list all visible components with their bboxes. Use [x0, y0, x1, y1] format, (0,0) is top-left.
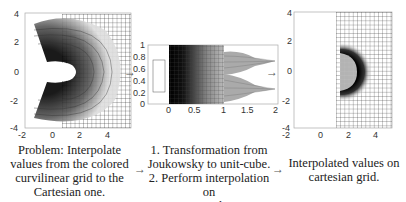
- svg-text:0.2: 0.2: [133, 88, 146, 98]
- left-plot: 4 2 0 -2 -4 -2 0 2 4: [0, 0, 140, 140]
- svg-text:0.8: 0.8: [133, 52, 146, 62]
- svg-text:4: 4: [14, 9, 19, 19]
- svg-text:0: 0: [318, 130, 323, 140]
- svg-text:0: 0: [166, 105, 171, 115]
- caption-middle: 1. Transformation from Joukowsky to unit…: [142, 143, 276, 202]
- svg-text:4: 4: [105, 130, 110, 140]
- svg-text:0: 0: [287, 66, 292, 76]
- middle-plot-figure: 1 0.8 0.6 0.4 0.2 0 0 0.5 1 1.5 2: [130, 30, 275, 112]
- svg-text:-2: -2: [10, 96, 18, 106]
- arrow-right-icon: →: [124, 66, 136, 78]
- svg-text:2: 2: [14, 37, 19, 47]
- left-x-ticks: -2 0 2 4: [18, 130, 110, 140]
- right-plot-figure: 4 2 0 -2 -4 -2 0 2 4: [260, 0, 406, 140]
- svg-text:0: 0: [50, 130, 55, 140]
- svg-text:2: 2: [77, 130, 82, 140]
- left-y-ticks: 4 2 0 -2 -4: [10, 9, 19, 133]
- svg-text:1: 1: [140, 40, 145, 50]
- arrow-right-icon: →: [266, 66, 278, 78]
- svg-text:0: 0: [140, 99, 145, 109]
- svg-text:4: 4: [287, 8, 292, 18]
- right-x-ticks: -2 0 2 4: [282, 130, 378, 140]
- svg-text:-2: -2: [282, 96, 290, 106]
- left-plot-figure: 4 2 0 -2 -4 -2 0 2 4: [0, 0, 140, 140]
- svg-text:0: 0: [14, 67, 19, 77]
- svg-text:1: 1: [221, 105, 226, 115]
- svg-text:-4: -4: [10, 123, 18, 133]
- caption-right: Interpolated values on cartesian grid.: [282, 156, 406, 184]
- caption-left: Problem: Interpolate values from the col…: [2, 143, 137, 199]
- svg-text:2: 2: [346, 130, 351, 140]
- svg-text:4: 4: [373, 130, 378, 140]
- svg-text:2: 2: [287, 36, 292, 46]
- svg-text:1.5: 1.5: [241, 105, 254, 115]
- middle-plot: 1 0.8 0.6 0.4 0.2 0 0 0.5 1 1.5 2: [130, 30, 275, 112]
- right-y-ticks: 4 2 0 -2 -4: [282, 8, 292, 133]
- svg-text:-2: -2: [18, 130, 26, 140]
- svg-text:-2: -2: [282, 130, 290, 140]
- svg-text:0.5: 0.5: [188, 105, 201, 115]
- right-plot: 4 2 0 -2 -4 -2 0 2 4: [260, 0, 406, 140]
